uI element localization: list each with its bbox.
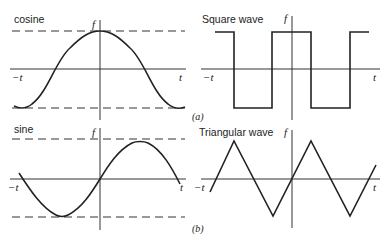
f-axis-label: f	[284, 12, 289, 24]
neg-t-label: −t	[8, 181, 19, 193]
pos-t-label: t	[373, 71, 377, 83]
pos-t-label: t	[179, 71, 183, 83]
square-wave-panel: Square wave f −t t	[201, 12, 380, 120]
part-label-b: (b)	[192, 223, 204, 235]
triangular-wave-title: Triangular wave	[199, 126, 273, 138]
square-wave-title: Square wave	[202, 13, 263, 25]
f-axis-label: f	[284, 126, 289, 138]
sine-panel: sine f −t t	[8, 123, 186, 230]
sine-title: sine	[14, 123, 33, 135]
waveform-figure: cosine f −t t Square wave f −t t (a) sin…	[0, 0, 388, 245]
neg-t-label: −t	[203, 71, 214, 83]
neg-t-label: −t	[194, 181, 205, 193]
pos-t-label: t	[373, 181, 377, 193]
cosine-title: cosine	[14, 13, 45, 25]
cosine-panel: cosine f −t t	[10, 13, 186, 120]
f-axis-label: f	[92, 18, 97, 30]
neg-t-label: −t	[12, 71, 23, 83]
triangular-wave-panel: Triangular wave f −t t	[194, 126, 380, 228]
f-axis-label: f	[92, 126, 97, 138]
pos-t-label: t	[180, 181, 184, 193]
part-label-a: (a)	[192, 111, 204, 123]
